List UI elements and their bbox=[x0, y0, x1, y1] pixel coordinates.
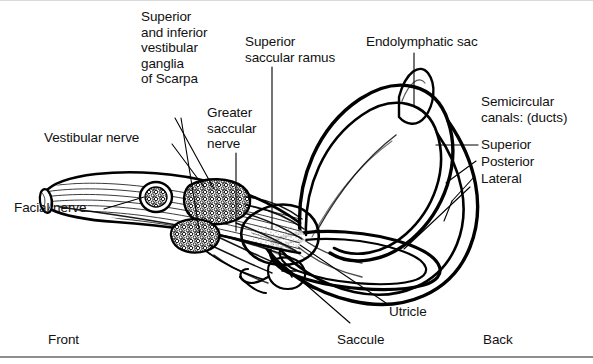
label-superior-saccular-ramus: Superior saccular ramus bbox=[245, 34, 335, 65]
label-orientation-front: Front bbox=[48, 332, 79, 348]
label-canal-superior: Superior bbox=[481, 137, 531, 153]
label-saccule: Saccule bbox=[337, 332, 384, 348]
label-canal-posterior: Posterior bbox=[481, 154, 534, 170]
anatomical-figure: Superior and inferior vestibular ganglia… bbox=[0, 0, 593, 364]
label-vestibular-nerve: Vestibular nerve bbox=[44, 130, 139, 146]
label-semicircular-canals: Semicircular canals: (ducts) bbox=[481, 94, 567, 125]
label-facial-nerve: Facial nerve bbox=[14, 200, 86, 216]
label-canal-lateral: Lateral bbox=[481, 171, 522, 187]
figure-caption-clipped bbox=[8, 360, 593, 364]
label-greater-saccular-nerve: Greater saccular nerve bbox=[207, 105, 256, 152]
label-endolymphatic-sac: Endolymphatic sac bbox=[366, 34, 478, 50]
label-vestibular-ganglia-of-scarpa: Superior and inferior vestibular ganglia… bbox=[141, 9, 207, 87]
label-orientation-back: Back bbox=[483, 332, 513, 348]
figure-divider-rule bbox=[0, 356, 593, 358]
label-utricle: Utricle bbox=[389, 304, 427, 320]
